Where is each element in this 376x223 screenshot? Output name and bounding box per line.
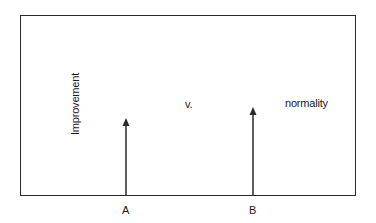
arrow-b-label: B — [249, 204, 256, 216]
arrow-a — [123, 118, 130, 196]
arrow-a-label: A — [122, 204, 129, 216]
arrow-b — [250, 107, 257, 196]
improvement-label: Improvement — [69, 69, 81, 139]
normality-label: normality — [285, 97, 328, 109]
versus-label: v. — [185, 98, 192, 110]
arrows-layer — [0, 0, 376, 223]
